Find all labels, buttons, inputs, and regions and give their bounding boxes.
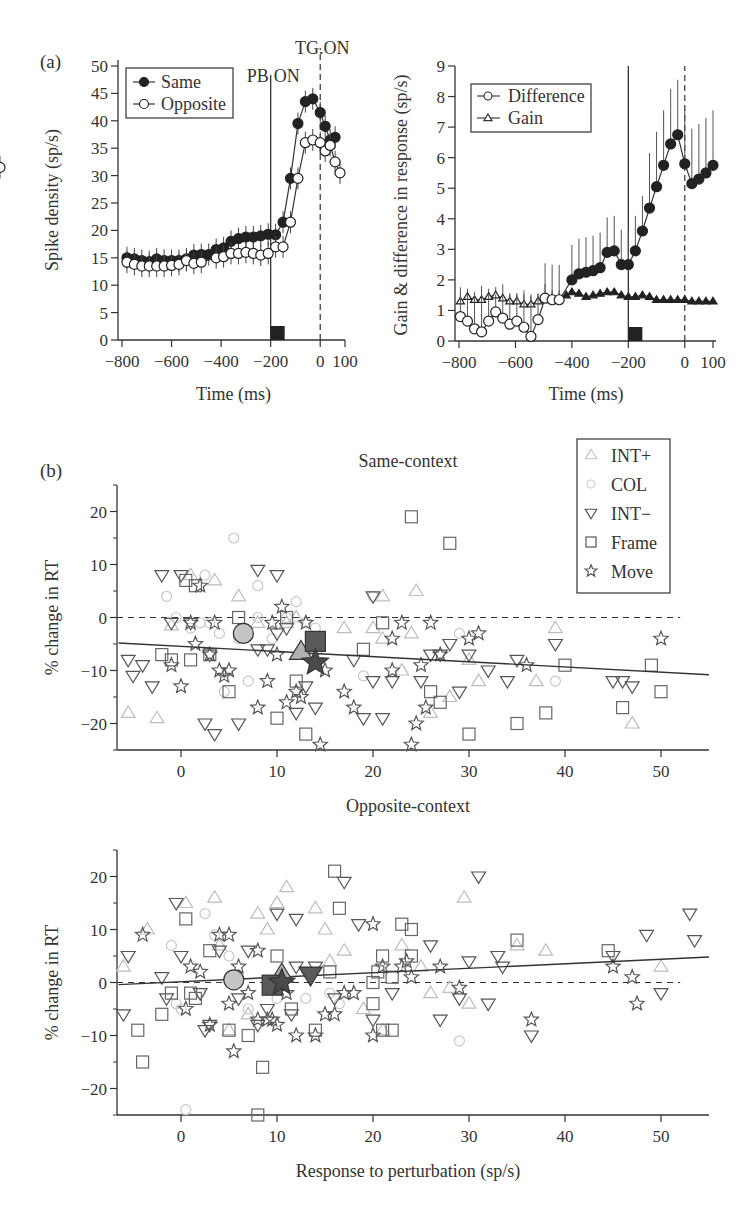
data-point-int bbox=[352, 920, 366, 931]
legend-label: COL bbox=[611, 475, 647, 495]
data-point-frame bbox=[165, 654, 177, 666]
x-tick-label: 0 bbox=[177, 762, 186, 781]
data-point-int bbox=[501, 677, 515, 688]
data-point-int bbox=[462, 650, 476, 661]
same-context-scatter: −20−100102001020304050Opposite-context% … bbox=[42, 439, 709, 816]
y-tick-label: 20 bbox=[90, 868, 107, 887]
data-point-col bbox=[454, 1036, 464, 1046]
data-point-int bbox=[318, 923, 332, 934]
x-tick-label: 10 bbox=[269, 762, 286, 781]
data-point-int bbox=[270, 896, 284, 907]
data-point-int bbox=[145, 682, 159, 693]
data-point-int bbox=[117, 960, 131, 971]
regression-line bbox=[119, 643, 709, 675]
opposite-point bbox=[335, 168, 345, 178]
data-point-int bbox=[121, 655, 135, 666]
data-point-int bbox=[443, 640, 457, 651]
data-point-move bbox=[419, 700, 433, 714]
gain-point bbox=[568, 288, 576, 295]
data-point-int bbox=[261, 1005, 275, 1016]
legend-label: Difference bbox=[508, 86, 585, 106]
data-point-int bbox=[174, 952, 188, 963]
data-point-int bbox=[357, 714, 371, 725]
data-point-move bbox=[400, 954, 414, 968]
data-point-int bbox=[232, 719, 246, 730]
data-point-col bbox=[214, 628, 224, 638]
legend-label: INT+ bbox=[611, 446, 651, 466]
data-point-int bbox=[347, 655, 361, 666]
data-point-int bbox=[208, 891, 222, 902]
data-point-int bbox=[222, 1023, 236, 1034]
data-point-int bbox=[198, 719, 212, 730]
y-tick-label: 45 bbox=[91, 84, 108, 103]
legend-label: Move bbox=[611, 562, 653, 582]
data-point-move bbox=[222, 927, 236, 941]
panel-b-label: (b) bbox=[40, 460, 62, 482]
x-tick-label: 30 bbox=[461, 762, 478, 781]
data-point-int bbox=[688, 936, 702, 947]
data-point-move bbox=[630, 996, 644, 1010]
data-point-int bbox=[433, 1015, 447, 1026]
difference-point bbox=[623, 260, 633, 270]
data-point-move bbox=[251, 700, 265, 714]
stimulus-marker bbox=[271, 326, 285, 340]
data-point-int bbox=[640, 930, 654, 941]
x-tick-label: −600 bbox=[154, 352, 189, 371]
y-tick-label: 9 bbox=[437, 57, 446, 76]
on-label: ON bbox=[274, 66, 300, 86]
y-tick-label: −20 bbox=[80, 1080, 107, 1099]
same-point bbox=[293, 119, 303, 129]
y-tick-label: 20 bbox=[91, 221, 108, 240]
x-tick-label: −200 bbox=[253, 352, 288, 371]
difference-point bbox=[533, 315, 543, 325]
opposite-point bbox=[278, 242, 288, 252]
data-point-move bbox=[337, 684, 351, 698]
data-point-int bbox=[357, 1002, 371, 1013]
data-point-int bbox=[117, 1010, 131, 1021]
data-point-frame bbox=[645, 659, 657, 671]
data-point-move bbox=[347, 986, 361, 1000]
data-point-int bbox=[525, 1031, 539, 1042]
y-tick-label: 30 bbox=[91, 167, 108, 186]
data-point-move bbox=[524, 1012, 538, 1026]
difference-point bbox=[652, 182, 662, 192]
y-tick-label: 0 bbox=[437, 332, 446, 351]
stimulus-marker bbox=[628, 327, 642, 341]
difference-point bbox=[519, 322, 529, 332]
y-tick-label: 3 bbox=[437, 240, 446, 259]
data-point-col bbox=[301, 993, 311, 1003]
data-point-frame bbox=[396, 918, 408, 930]
data-point-col bbox=[253, 581, 263, 591]
data-point-int bbox=[385, 677, 399, 688]
data-point-int bbox=[280, 880, 294, 891]
data-point-col bbox=[243, 676, 253, 686]
data-point-int bbox=[136, 661, 150, 672]
data-point-frame bbox=[655, 686, 667, 698]
data-point-int bbox=[472, 872, 486, 883]
same-point bbox=[320, 121, 330, 131]
data-point-frame bbox=[257, 1061, 269, 1073]
data-point-int bbox=[654, 960, 668, 971]
same-legend-icon bbox=[140, 78, 149, 87]
x-tick-label: 40 bbox=[557, 1127, 574, 1146]
data-point-col bbox=[200, 570, 210, 580]
y-axis-label: % change in RT bbox=[42, 925, 62, 1040]
data-point-frame bbox=[156, 1008, 168, 1020]
data-point-move bbox=[433, 647, 447, 661]
mean-point-col bbox=[233, 623, 253, 643]
gain-point bbox=[610, 288, 618, 295]
data-point-col bbox=[550, 676, 560, 686]
data-point-move bbox=[260, 674, 274, 688]
legend-label: Frame bbox=[611, 533, 657, 553]
x-tick-label: 50 bbox=[653, 1127, 670, 1146]
data-point-frame bbox=[559, 659, 571, 671]
data-point-int bbox=[481, 666, 495, 677]
data-point-move bbox=[289, 1028, 303, 1042]
data-point-frame bbox=[357, 643, 369, 655]
data-point-int bbox=[121, 952, 135, 963]
y-tick-label: −20 bbox=[80, 715, 107, 734]
data-point-int bbox=[654, 989, 668, 1000]
gain-point bbox=[695, 297, 703, 304]
y-axis-label: Gain & difference in response (sp/s) bbox=[391, 74, 412, 335]
difference-point bbox=[637, 226, 647, 236]
